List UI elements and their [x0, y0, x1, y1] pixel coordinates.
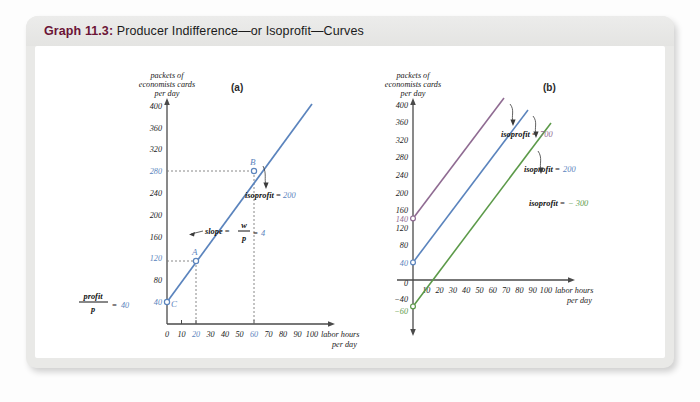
panel-a-ylabel-2: economists cards — [139, 80, 195, 89]
panel-a-ytick-240: 240 — [150, 189, 162, 198]
panel-a-isoprofit-arrowhead — [263, 183, 268, 190]
panel-b-intercept-m300-marker — [411, 304, 416, 309]
panel-a-xtick-90: 90 — [293, 330, 301, 339]
panel-b-xtick-60: 60 — [489, 286, 497, 295]
panel-b-ytick-40: 40 — [400, 259, 408, 268]
panel-b-xtick-80: 80 — [515, 286, 523, 295]
panel-b-ylabel-2: economists cards — [385, 80, 441, 89]
panel-a-ytick-160: 160 — [150, 233, 162, 242]
panel-b-intercept-700-marker — [411, 216, 416, 221]
panel-a-slope-equals: = — [253, 229, 258, 238]
panel-a-isoprofit-line — [167, 104, 312, 302]
panel-a-xticks: 0 10 20 30 40 50 60 70 80 90 100 — [165, 320, 318, 339]
panel-b-yaxis-arrow-up — [410, 98, 416, 105]
panel-b-isoprofit-700-value: 700 — [540, 130, 553, 139]
panel-a-xtick-30: 30 — [205, 330, 214, 339]
panel-b-ytick-360: 360 — [395, 118, 408, 127]
panel-a-slope-numerator: w — [241, 221, 247, 230]
figure-card: Graph 11.3: Producer Indifference—or Iso… — [26, 16, 674, 368]
panel-a-profit-annotation: profit p = 40 — [79, 292, 129, 314]
panel-b-xticks: 10 20 30 40 50 60 70 80 90 100 — [422, 286, 552, 295]
panel-a-ytick-360: 360 — [149, 124, 162, 133]
panel-b-ytick-120: 120 — [396, 224, 408, 233]
panel-b-ytick-m40: −40 — [394, 295, 408, 304]
panel-a-ylabel-3: per day — [154, 89, 180, 98]
panel-a-xaxis-arrow — [328, 321, 335, 327]
panel-a-ytick-200: 200 — [150, 211, 162, 220]
panel-a-point-c-label: C — [171, 299, 178, 309]
panel-a-ytick-320: 320 — [149, 145, 162, 154]
panel-b-isoprofit-200-value: 200 — [563, 165, 576, 174]
panel-a-slope-text: slope = — [204, 227, 230, 236]
panel-b-xtick-20: 20 — [436, 286, 444, 295]
panel-b-arrowhead-700 — [510, 120, 515, 127]
panel-b-intercept-200-marker — [411, 260, 416, 265]
panel-a-yaxis-arrow — [164, 98, 170, 105]
panel-a-point-a — [193, 258, 198, 263]
panel-a-xtick-0: 0 — [165, 330, 169, 339]
panel-a-xtick-50: 50 — [235, 330, 243, 339]
panel-a-xtick-70: 70 — [264, 330, 272, 339]
panel-b-plot: packets of economists cards per day 400 … — [335, 46, 665, 358]
panel-b-ytick-m60: −60 — [394, 307, 408, 316]
panel-a-ylabel-1: packets of — [150, 71, 186, 80]
panel-b-isoprofit-700-text: isoprofit = — [501, 130, 537, 139]
panel-b-isoprofit-m300-value: − 300 — [568, 199, 589, 208]
panel-b-xlabel-1: labor hours — [555, 286, 593, 295]
panel-a-point-b-label: B — [250, 157, 256, 167]
panel-b-xtick-70: 70 — [502, 286, 510, 295]
figure-caption: Graph 11.3: Producer Indifference—or Iso… — [44, 24, 364, 38]
panel-a-ytick-40: 40 — [154, 298, 162, 307]
panel-a-point-a-label: A — [191, 247, 198, 257]
panel-a-profit-value: 40 — [121, 301, 129, 310]
panel-a-xtick-40: 40 — [221, 330, 229, 339]
panel-b-ytick-400: 400 — [396, 101, 408, 110]
figure-header: Graph 11.3: Producer Indifference—or Iso… — [26, 16, 674, 46]
panel-a-yticks: 400 360 320 280 240 200 160 120 80 40 — [149, 102, 162, 307]
panel-a-ytick-280: 280 — [150, 167, 162, 176]
panel-b-yaxis-arrow-down — [410, 329, 416, 336]
page-root: Graph 11.3: Producer Indifference—or Iso… — [0, 0, 700, 402]
panel-b-isoprofit-m300-text: isoprofit = — [529, 199, 565, 208]
panel-a-isoprofit-value: 200 — [283, 191, 296, 200]
panel-a-ytick-400: 400 — [150, 102, 162, 111]
panel-b-ylabel-1: packets of — [396, 71, 432, 80]
panel-b-ytick-0: 0 — [404, 279, 408, 288]
panel-b-leader-700 — [510, 104, 513, 122]
panel-b-xtick-50: 50 — [475, 286, 483, 295]
panel-b-ytick-200: 200 — [396, 189, 408, 198]
panel-b-ytick-140: 140 — [396, 215, 408, 224]
panel-a-plot: packets of economists cards per day 400 … — [35, 46, 365, 358]
panel-b-annotation-m300: isoprofit = − 300 — [529, 151, 589, 208]
panel-a-slope-value: 4 — [261, 229, 265, 238]
panel-b-ytick-240: 240 — [396, 171, 408, 180]
panel-b-xtick-90: 90 — [529, 286, 537, 295]
panel-a-ytick-80: 80 — [154, 276, 162, 285]
panel-b-ylabel-3: per day — [400, 89, 426, 98]
panel-a-point-b — [251, 168, 256, 173]
panel-a-xtick-20: 20 — [192, 330, 200, 339]
panel-a-xtick-10: 10 — [177, 330, 185, 339]
panel-b-isoprofit-700-line — [413, 98, 504, 218]
figure-title: Producer Indifference—or Isoprofit—Curve… — [117, 24, 364, 38]
panel-a-ytick-120: 120 — [150, 254, 162, 263]
panel-b-xtick-30: 30 — [448, 286, 457, 295]
panel-b-yticks: 400 360 320 280 240 200 160 140 120 80 4… — [394, 101, 408, 316]
panel-b-annotation-700: isoprofit = 700 — [501, 104, 553, 139]
panel-b-ytick-160: 160 — [396, 206, 408, 215]
panel-a-slope-denominator: p — [241, 234, 246, 243]
panel-b-ytick-280: 280 — [396, 153, 408, 162]
panel-a-xtick-80: 80 — [279, 330, 287, 339]
panel-a-profit-numerator: profit — [82, 292, 103, 301]
panel-a-profit-equals: = — [112, 301, 117, 310]
panel-a-point-c — [164, 299, 169, 304]
figure-body: (a) (b) packets of economists cards per … — [35, 46, 665, 358]
panel-b-isoprofit-m300-line — [413, 123, 551, 306]
panel-b-ytick-320: 320 — [395, 136, 408, 145]
panel-a-isoprofit-text: isoprofit = — [245, 191, 281, 200]
panel-a-xtick-60: 60 — [250, 330, 258, 339]
panel-b-ytick-80: 80 — [400, 241, 408, 250]
panel-b-xtick-40: 40 — [462, 286, 470, 295]
panel-b-xtick-100: 100 — [540, 286, 552, 295]
panel-a-slope-arrowhead — [189, 232, 195, 236]
